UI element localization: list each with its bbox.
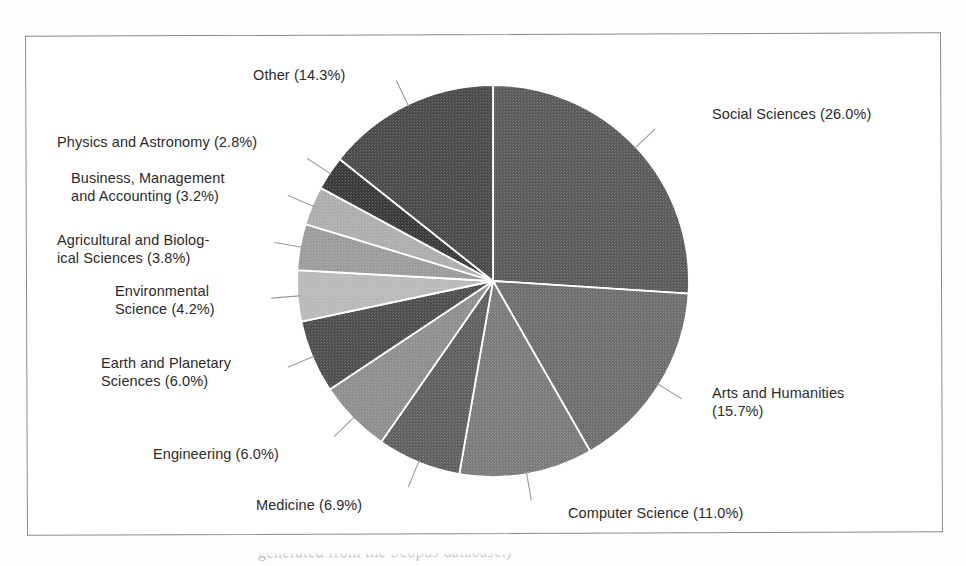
figure-caption-partial: generated from the Scopus database.) [258,547,512,561]
leader-line-medicine [409,460,420,486]
leader-line-arts-and-humanities [658,384,682,399]
pie-label-engineering: Engineering (6.0%) [153,446,333,464]
pie-label-business-management-and-accounting: Business, Management and Accounting (3.2… [71,170,301,205]
halftone-overlay [297,85,689,477]
figure-root: Social Sciences (26.0%)Arts and Humaniti… [0,0,966,566]
pie-label-environmental-science: Environmental Science (4.2%) [115,283,285,318]
leader-line-engineering [334,417,354,437]
caption-strip: generated from the Scopus database.) [0,547,966,566]
pie-label-agricultural-and-biological-sciences: Agricultural and Biolog- ical Sciences (… [57,232,297,267]
pie-label-social-sciences: Social Sciences (26.0%) [712,106,942,124]
pie-label-computer-science: Computer Science (11.0%) [568,505,818,523]
pie-label-earth-and-planetary-sciences: Earth and Planetary Sciences (6.0%) [101,355,301,390]
pie-label-medicine: Medicine (6.9%) [256,497,416,515]
pie-label-physics-and-astronomy: Physics and Astronomy (2.8%) [57,134,307,152]
leader-line-social-sciences [635,129,656,148]
pie-label-other: Other (14.3%) [253,67,403,85]
leader-line-other [397,81,409,106]
leader-line-computer-science [526,472,531,500]
leader-line-physics-and-astronomy [308,159,331,174]
pie-label-arts-and-humanities: Arts and Humanities (15.7%) [712,385,912,420]
